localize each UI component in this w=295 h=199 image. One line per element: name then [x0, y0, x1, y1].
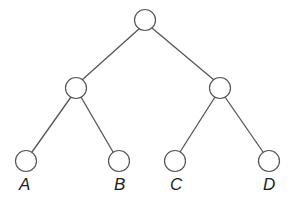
node-root: [135, 10, 156, 31]
label-b: B: [114, 175, 125, 194]
tree-diagram: A B C D: [0, 0, 295, 199]
label-a: A: [18, 175, 30, 194]
node-leaf-b: [109, 151, 130, 172]
node-leaf-d: [259, 151, 280, 172]
edge-root-right: [152, 28, 214, 80]
edge-root-left: [82, 28, 140, 80]
label-d: D: [263, 175, 275, 194]
edge-right-d: [225, 97, 263, 152]
node-leaf-c: [165, 151, 186, 172]
node-left: [66, 78, 87, 99]
node-leaf-a: [16, 151, 37, 172]
label-c: C: [170, 175, 183, 194]
edge-right-c: [180, 97, 215, 152]
edge-left-a: [32, 97, 71, 152]
node-right: [210, 78, 231, 99]
edge-left-b: [81, 97, 113, 152]
